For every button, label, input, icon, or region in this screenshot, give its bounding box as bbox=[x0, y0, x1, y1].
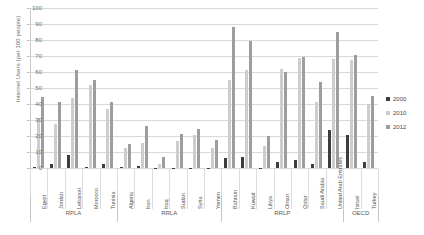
bar-2010 bbox=[280, 69, 283, 168]
y-axis-tick-label: 50 bbox=[22, 85, 42, 91]
y-axis-tick-mark bbox=[27, 56, 30, 57]
bar-group bbox=[187, 8, 204, 168]
bar-2010 bbox=[211, 148, 214, 168]
bar-2010 bbox=[141, 143, 144, 168]
bar-2000 bbox=[154, 168, 157, 169]
legend-item-2010[interactable]: 2010 bbox=[386, 110, 424, 116]
y-axis-tick-label: 60 bbox=[22, 69, 42, 75]
bar-2010 bbox=[37, 118, 40, 168]
bar-2000 bbox=[207, 168, 210, 169]
group-label-rrlp: RRLP bbox=[221, 210, 343, 216]
group-separator bbox=[221, 196, 222, 222]
y-axis-tick-mark bbox=[27, 72, 30, 73]
bar-2000 bbox=[276, 162, 279, 168]
bar-group bbox=[47, 8, 64, 168]
bar-2010 bbox=[245, 70, 248, 168]
group-separator bbox=[378, 196, 379, 222]
bar-2000 bbox=[85, 167, 88, 168]
bar-2012 bbox=[249, 41, 252, 168]
group-label-rrla: RRLA bbox=[117, 210, 221, 216]
bar-2012 bbox=[215, 140, 218, 168]
bar-group bbox=[100, 8, 117, 168]
bar-2012 bbox=[197, 129, 200, 168]
bar-2010 bbox=[298, 58, 301, 168]
bars-layer bbox=[30, 8, 378, 168]
y-axis-tick-label: 10 bbox=[22, 149, 42, 155]
bar-2010 bbox=[350, 60, 353, 168]
bar-2010 bbox=[367, 104, 370, 168]
bar-2010 bbox=[158, 164, 161, 168]
bar-2012 bbox=[75, 70, 78, 168]
legend-item-2000[interactable]: 2000 bbox=[386, 96, 424, 102]
legend-swatch-icon bbox=[386, 97, 390, 101]
y-axis-tick-mark bbox=[27, 152, 30, 153]
bar-group bbox=[239, 8, 256, 168]
bar-2000 bbox=[137, 166, 140, 168]
region-group-band: RPLARRLARRLPOECD bbox=[30, 196, 378, 222]
bar-2000 bbox=[102, 164, 105, 168]
group-label-rpla: RPLA bbox=[30, 210, 117, 216]
bar-2010 bbox=[193, 135, 196, 168]
bar-2012 bbox=[180, 134, 183, 168]
bar-2000 bbox=[50, 164, 53, 168]
internet-users-bar-chart: Internet Users (per 100 people) 01020304… bbox=[0, 0, 424, 235]
bar-group bbox=[65, 8, 82, 168]
group-label-oecd: OECD bbox=[343, 210, 378, 216]
bar-2012 bbox=[58, 102, 61, 168]
bar-2012 bbox=[162, 157, 165, 168]
bar-2010 bbox=[54, 124, 57, 168]
legend-swatch-icon bbox=[386, 111, 390, 115]
bar-2000 bbox=[189, 168, 192, 169]
y-axis-tick-label: 100 bbox=[22, 5, 42, 11]
bar-group bbox=[134, 8, 151, 168]
bar-2010 bbox=[176, 141, 179, 168]
legend-label: 2000 bbox=[393, 96, 406, 102]
bar-group bbox=[274, 8, 291, 168]
chart-legend: 200020102012 bbox=[386, 96, 424, 138]
plot-area bbox=[30, 8, 378, 168]
bar-2012 bbox=[93, 80, 96, 168]
y-axis-tick-label: 20 bbox=[22, 133, 42, 139]
y-axis-tick-mark bbox=[27, 136, 30, 137]
group-separator bbox=[30, 196, 31, 222]
bar-group bbox=[308, 8, 325, 168]
y-axis-tick-label: 40 bbox=[22, 101, 42, 107]
bar-group bbox=[117, 8, 134, 168]
bar-2000 bbox=[328, 130, 331, 168]
bar-2000 bbox=[259, 168, 262, 169]
y-axis-tick-mark bbox=[27, 8, 30, 9]
bar-2012 bbox=[354, 55, 357, 168]
bar-2012 bbox=[110, 102, 113, 168]
bar-group bbox=[343, 8, 360, 168]
bar-group bbox=[326, 8, 343, 168]
bar-2010 bbox=[71, 98, 74, 168]
legend-item-2012[interactable]: 2012 bbox=[386, 124, 424, 130]
bar-2012 bbox=[232, 27, 235, 168]
y-axis-tick-label: 90 bbox=[22, 21, 42, 27]
bar-2010 bbox=[263, 146, 266, 168]
bar-2010 bbox=[106, 109, 109, 168]
bar-group bbox=[361, 8, 378, 168]
bar-2012 bbox=[145, 126, 148, 168]
bar-2000 bbox=[311, 164, 314, 168]
bar-2000 bbox=[294, 160, 297, 168]
bar-2000 bbox=[346, 135, 349, 168]
bar-2010 bbox=[228, 80, 231, 168]
bar-2012 bbox=[319, 82, 322, 168]
bar-2000 bbox=[363, 162, 366, 168]
bar-2012 bbox=[302, 57, 305, 168]
bar-2012 bbox=[128, 144, 131, 168]
legend-swatch-icon bbox=[386, 125, 390, 129]
y-axis-tick-mark bbox=[27, 88, 30, 89]
bar-2010 bbox=[124, 148, 127, 168]
bar-group bbox=[221, 8, 238, 168]
bar-group bbox=[256, 8, 273, 168]
group-separator bbox=[117, 196, 118, 222]
y-axis-tick-label: 30 bbox=[22, 117, 42, 123]
bar-2000 bbox=[241, 157, 244, 168]
bar-2000 bbox=[224, 158, 227, 168]
legend-label: 2010 bbox=[393, 110, 406, 116]
bar-group bbox=[152, 8, 169, 168]
y-axis-tick-mark bbox=[27, 120, 30, 121]
bar-2000 bbox=[120, 167, 123, 168]
